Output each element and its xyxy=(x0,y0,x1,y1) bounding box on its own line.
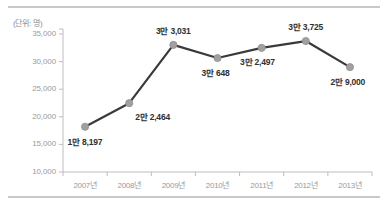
y-axis-tick-label: 10,000 xyxy=(16,167,56,176)
chart-figure: (단위: 명) 10,00015,00020,00025,00030,00035… xyxy=(0,0,388,205)
x-axis-tick-label: 2013년 xyxy=(327,179,373,190)
x-axis-tick-label: 2007년 xyxy=(62,179,108,190)
data-point-marker[interactable] xyxy=(170,41,177,48)
line-chart-svg xyxy=(0,0,388,205)
y-axis-tick-label: 15,000 xyxy=(16,139,56,148)
y-axis-tick-label: 30,000 xyxy=(16,57,56,66)
series-markers-group xyxy=(81,37,353,130)
data-point-label: 1만 8,197 xyxy=(68,135,103,147)
data-point-marker[interactable] xyxy=(126,100,133,107)
data-point-label: 2만 2,464 xyxy=(135,110,170,122)
data-point-label: 3만 3,031 xyxy=(156,24,191,36)
x-axis-tick-label: 2008년 xyxy=(106,179,152,190)
axis-ticks-group xyxy=(59,29,372,176)
data-point-label: 2만 9,000 xyxy=(330,75,365,87)
y-axis-tick-label: 20,000 xyxy=(16,112,56,121)
data-point-label: 3만 2,497 xyxy=(240,55,275,67)
series-line xyxy=(85,41,350,127)
data-point-marker[interactable] xyxy=(346,64,353,71)
x-axis-tick-label: 2012년 xyxy=(283,179,329,190)
axes-group xyxy=(63,29,372,172)
data-point-marker[interactable] xyxy=(214,54,221,61)
plot-area: 10,00015,00020,00025,00030,00035,000 200… xyxy=(0,0,388,205)
data-point-marker[interactable] xyxy=(258,44,265,51)
x-axis-tick-label: 2010년 xyxy=(195,179,241,190)
data-point-marker[interactable] xyxy=(302,37,309,44)
x-axis-tick-label: 2009년 xyxy=(150,179,196,190)
y-axis-tick-label: 35,000 xyxy=(16,29,56,38)
data-point-marker[interactable] xyxy=(81,123,88,130)
data-point-label: 3만 3,725 xyxy=(288,20,323,32)
y-axis-tick-label: 25,000 xyxy=(16,84,56,93)
data-point-label: 3만 648 xyxy=(202,66,230,78)
x-axis-tick-label: 2011년 xyxy=(239,179,285,190)
